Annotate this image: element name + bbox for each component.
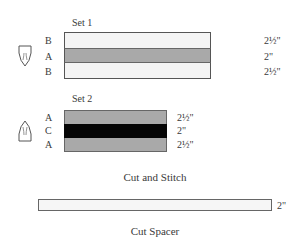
set1-row2-size: 2" — [264, 52, 273, 62]
cut-and-stitch-caption: Cut and Stitch — [100, 172, 210, 183]
set1-band-b-top — [64, 32, 211, 48]
set2-row3-letter: A — [45, 140, 52, 150]
set1-title: Set 1 — [72, 18, 92, 28]
set2-band-c — [64, 124, 167, 138]
set1-row1-size: 2½" — [264, 36, 281, 46]
set2-row3-size: 2½" — [177, 140, 194, 150]
set1-row3-size: 2½" — [264, 67, 281, 77]
set1-band-a — [64, 48, 211, 63]
set2-title: Set 2 — [72, 94, 92, 104]
iron-point-up-icon — [17, 119, 33, 143]
cut-spacer-caption: Cut Spacer — [100, 226, 210, 237]
set2-row2-size: 2" — [177, 126, 186, 136]
set1-row3-letter: B — [45, 67, 52, 77]
set2-band-a-bottom — [64, 138, 167, 152]
set2-band-a-top — [64, 110, 167, 124]
spacer-strip — [38, 199, 272, 211]
spacer-size: 2" — [277, 201, 286, 211]
set2-row1-letter: A — [45, 113, 52, 123]
set1-band-b-bottom — [64, 63, 211, 79]
set1-row2-letter: A — [45, 52, 52, 62]
set2-row2-letter: C — [45, 126, 52, 136]
iron-point-down-icon — [17, 44, 33, 68]
set2-row1-size: 2½" — [177, 113, 194, 123]
set1-row1-letter: B — [45, 36, 52, 46]
